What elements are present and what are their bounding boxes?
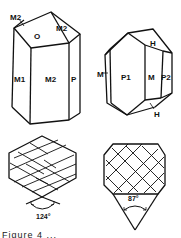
label-right-p2: P2 [161, 73, 171, 82]
right-cross-section [104, 144, 165, 230]
label-left-m2-top: M2 [10, 13, 22, 22]
left-cross-section [9, 136, 76, 209]
label-left-o: O [34, 32, 40, 41]
label-right-p1: P1 [121, 73, 131, 82]
label-left-m1: M1 [14, 75, 26, 84]
label-left-m2-right-top: M2 [56, 24, 68, 33]
figure-caption: Figure 4 ... [2, 230, 181, 238]
label-right-m-left: M [97, 70, 104, 79]
crystal-figure: M2 O M2 M1 M2 P H M P1 M P2 H 124° 87° [0, 0, 181, 238]
right-crystal-drawing [102, 29, 172, 115]
angle-label-124: 124° [36, 213, 51, 220]
left-crystal-drawing [12, 12, 80, 124]
label-left-p: P [71, 75, 77, 84]
label-right-h-bottom: H [154, 110, 160, 119]
label-right-h-top: H [150, 39, 156, 48]
label-right-m: M [148, 73, 155, 82]
angle-label-87: 87° [128, 195, 139, 202]
label-left-m2-front: M2 [45, 75, 57, 84]
